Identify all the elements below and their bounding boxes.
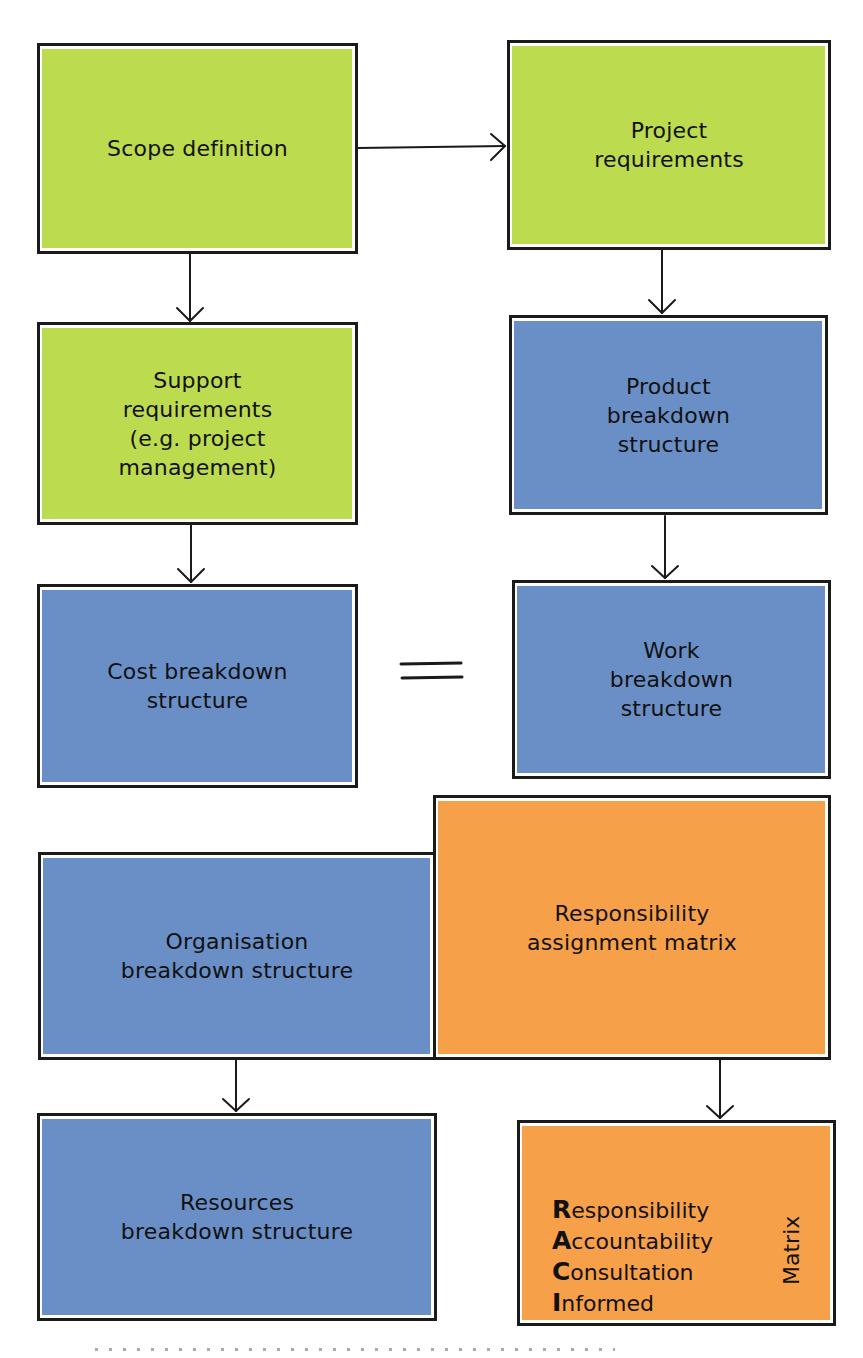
node-label: Scope definition [107, 134, 288, 163]
node-project-requirements: Project requirements [507, 40, 831, 250]
raci-word: nformed [561, 1291, 654, 1316]
raci-initial: C [552, 1257, 570, 1286]
caption-ascenders [95, 1348, 615, 1351]
raci-initial: R [552, 1195, 571, 1224]
node-label: Resources breakdown structure [121, 1188, 353, 1246]
node-scope-definition: Scope definition [37, 43, 358, 254]
node-label: Work breakdown structure [610, 636, 733, 723]
arrow-scope-to-project-requirements [358, 134, 505, 160]
arrow-responsibility-matrix-to-raci [707, 1059, 733, 1118]
equals-sign-cost-work [401, 663, 462, 678]
arrow-project-requirements-to-product-breakdown [649, 249, 675, 313]
raci-row-informed: Informed [552, 1288, 713, 1319]
raci-row-consultation: Consultation [552, 1257, 713, 1288]
raci-initial: A [552, 1226, 571, 1255]
node-organisation-breakdown-structure: Organisation breakdown structure [38, 852, 436, 1060]
node-responsibility-assignment-matrix: Responsibility assignment matrix [433, 795, 831, 1060]
raci-row-accountability: Accountability [552, 1226, 713, 1257]
matrix-vertical-text: Matrix [779, 1216, 804, 1285]
raci-initial: I [552, 1288, 561, 1317]
raci-row-responsibility: Responsibility [552, 1195, 713, 1226]
arrow-organisation-to-resources [223, 1059, 249, 1111]
node-support-requirements: Support requirements (e.g. project manag… [37, 322, 358, 525]
node-label: Support requirements (e.g. project manag… [118, 366, 276, 482]
node-work-breakdown-structure: Work breakdown structure [512, 580, 831, 779]
node-label: Product breakdown structure [607, 372, 730, 459]
node-label: Responsibility assignment matrix [527, 899, 737, 957]
arrow-scope-to-support-requirements [177, 253, 203, 321]
raci-word: ccountability [571, 1229, 713, 1254]
raci-list: Responsibility Accountability Consultati… [552, 1195, 713, 1319]
truncated-caption [0, 1348, 863, 1358]
arrow-support-requirements-to-cost-breakdown [178, 524, 204, 582]
arrow-product-breakdown-to-work-breakdown [652, 516, 678, 578]
node-cost-breakdown-structure: Cost breakdown structure [37, 584, 358, 788]
node-label: Organisation breakdown structure [121, 927, 353, 985]
node-label: Cost breakdown structure [107, 657, 287, 715]
node-resources-breakdown-structure: Resources breakdown structure [37, 1113, 437, 1321]
node-label: Project requirements [594, 116, 744, 174]
node-product-breakdown-structure: Product breakdown structure [509, 315, 828, 515]
raci-word: esponsibility [571, 1198, 709, 1223]
raci-word: onsultation [570, 1260, 693, 1285]
